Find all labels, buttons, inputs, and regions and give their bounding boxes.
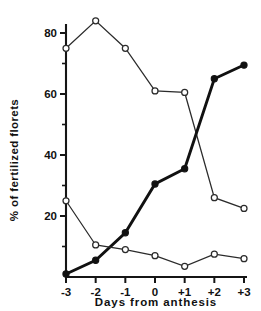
chart-figure: 20406080 -3-2-10+1+2+3 % of fertilized f… — [0, 0, 261, 311]
data-point-open — [122, 45, 128, 51]
y-tick-label: 20 — [44, 210, 57, 222]
data-point-filled — [122, 230, 128, 236]
data-point-filled — [63, 271, 69, 277]
x-tick-label: +3 — [237, 286, 250, 298]
data-point-open — [241, 205, 247, 211]
y-tick-label: 60 — [44, 88, 57, 100]
data-point-open — [122, 247, 128, 253]
data-point-filled — [182, 166, 188, 172]
y-axis-label: % of fertilized florets — [8, 99, 20, 221]
data-point-open — [152, 88, 158, 94]
data-point-open — [93, 18, 99, 24]
y-tick-labels: 20406080 — [44, 27, 57, 222]
series-lower-open-circles — [63, 198, 247, 270]
series-line — [66, 21, 244, 209]
data-point-open — [211, 251, 217, 257]
data-point-filled — [93, 257, 99, 263]
data-point-open — [211, 195, 217, 201]
ticks-group — [60, 33, 244, 283]
data-point-filled — [152, 181, 158, 187]
data-point-open — [93, 242, 99, 248]
data-point-open — [182, 263, 188, 269]
x-tick-label: -3 — [61, 286, 71, 298]
data-point-filled — [241, 62, 247, 68]
data-point-open — [63, 198, 69, 204]
axes-group — [66, 24, 247, 277]
y-tick-label: 80 — [44, 27, 57, 39]
data-point-open — [63, 45, 69, 51]
y-tick-label: 40 — [44, 149, 57, 161]
data-series-group — [63, 18, 247, 277]
data-point-filled — [211, 76, 217, 82]
line-chart: 20406080 -3-2-10+1+2+3 % of fertilized f… — [0, 0, 261, 311]
x-axis-label: Days from anthesis — [95, 296, 217, 308]
data-point-open — [241, 256, 247, 262]
data-point-open — [152, 253, 158, 259]
data-point-open — [182, 89, 188, 95]
series-line — [66, 65, 244, 274]
